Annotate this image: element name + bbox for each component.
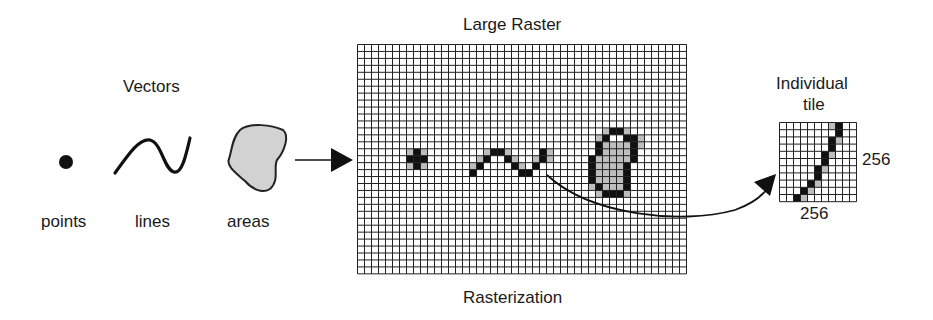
raster-black-cell	[477, 163, 484, 170]
raster-gray-cell	[603, 128, 610, 135]
raster-black-cell	[624, 135, 631, 142]
raster-gray-cell	[519, 163, 526, 170]
raster-gray-cell	[617, 142, 624, 149]
raster-gray-cell	[624, 128, 631, 135]
diagram-canvas	[0, 0, 933, 320]
raster-gray-cell	[624, 149, 631, 156]
raster-black-cell	[617, 128, 624, 135]
point-icon	[59, 155, 73, 169]
curved-arrow-line	[547, 175, 768, 217]
tile-gray-cell	[836, 137, 843, 144]
raster-gray-cell	[421, 149, 428, 156]
tile-black-cell	[815, 173, 822, 180]
raster-gray-cell	[624, 190, 631, 197]
raster-gray-cell	[603, 177, 610, 184]
tile-black-cell	[815, 166, 822, 173]
raster-gray-cell	[617, 149, 624, 156]
raster-gray-cell	[533, 156, 540, 163]
raster-gray-cell	[617, 177, 624, 184]
raster-gray-cell	[603, 163, 610, 170]
tile-gray-cell	[808, 187, 815, 194]
tile-width-label: 256	[800, 204, 828, 224]
raster-black-cell	[533, 163, 540, 170]
raster-black-cell	[631, 142, 638, 149]
raster-gray-cell	[603, 156, 610, 163]
raster-gray-cell	[617, 163, 624, 170]
tile-gray-cell	[829, 151, 836, 158]
tile-title-line1: Individual	[776, 74, 848, 94]
large-raster-title: Large Raster	[463, 15, 561, 35]
raster-black-cell	[631, 156, 638, 163]
raster-black-cell	[407, 156, 414, 163]
raster-gray-cell	[624, 156, 631, 163]
raster-gray-cell	[484, 149, 491, 156]
raster-black-cell	[624, 163, 631, 170]
raster-gray-cell	[603, 149, 610, 156]
raster-black-cell	[610, 128, 617, 135]
raster-black-cell	[505, 156, 512, 163]
tile-black-cell	[836, 123, 843, 130]
raster-gray-cell	[610, 163, 617, 170]
raster-gray-cell	[624, 142, 631, 149]
raster-gray-cell	[638, 142, 645, 149]
tile-black-cell	[829, 137, 836, 144]
raster-black-cell	[512, 163, 519, 170]
large-raster-grid	[358, 45, 687, 274]
raster-black-cell	[498, 149, 505, 156]
raster-gray-cell	[603, 142, 610, 149]
tile-black-cell	[822, 151, 829, 158]
vectors-title: Vectors	[123, 77, 180, 97]
tile-height-label: 256	[862, 150, 890, 170]
raster-gray-cell	[596, 177, 603, 184]
raster-gray-cell	[407, 149, 414, 156]
tile-black-cell	[801, 187, 808, 194]
raster-black-cell	[617, 190, 624, 197]
raster-gray-cell	[421, 163, 428, 170]
raster-black-cell	[603, 135, 610, 142]
raster-gray-cell	[610, 149, 617, 156]
tile-black-cell	[822, 159, 829, 166]
raster-gray-cell	[617, 170, 624, 177]
raster-black-cell	[589, 177, 596, 184]
raster-black-cell	[589, 163, 596, 170]
raster-gray-cell	[589, 184, 596, 191]
raster-black-cell	[596, 149, 603, 156]
raster-gray-cell	[547, 149, 554, 156]
raster-black-cell	[610, 190, 617, 197]
rasterization-caption: Rasterization	[463, 288, 562, 308]
raster-gray-cell	[596, 135, 603, 142]
tile-gray-cell	[829, 123, 836, 130]
raster-black-cell	[631, 135, 638, 142]
raster-black-cell	[470, 170, 477, 177]
areas-label: areas	[227, 212, 270, 232]
raster-black-cell	[624, 184, 631, 191]
raster-black-cell	[603, 190, 610, 197]
raster-black-cell	[540, 156, 547, 163]
individual-tile-grid	[780, 123, 857, 202]
raster-black-cell	[484, 156, 491, 163]
raster-black-cell	[414, 149, 421, 156]
raster-gray-cell	[505, 149, 512, 156]
raster-black-cell	[526, 170, 533, 177]
tile-black-cell	[836, 130, 843, 137]
raster-black-cell	[414, 163, 421, 170]
raster-gray-cell	[470, 163, 477, 170]
raster-gray-cell	[603, 170, 610, 177]
area-blob-icon	[228, 125, 286, 191]
raster-black-cell	[596, 142, 603, 149]
raster-gray-cell	[610, 170, 617, 177]
raster-black-cell	[631, 149, 638, 156]
raster-gray-cell	[547, 156, 554, 163]
tile-gray-cell	[822, 166, 829, 173]
raster-gray-cell	[512, 156, 519, 163]
arrow-to-raster-head	[331, 148, 353, 172]
raster-gray-cell	[477, 156, 484, 163]
points-label: points	[41, 212, 86, 232]
lines-label: lines	[135, 212, 170, 232]
raster-black-cell	[540, 149, 547, 156]
wavy-line-icon	[115, 138, 190, 173]
raster-gray-cell	[596, 156, 603, 163]
raster-gray-cell	[617, 156, 624, 163]
raster-black-cell	[589, 170, 596, 177]
raster-gray-cell	[610, 156, 617, 163]
